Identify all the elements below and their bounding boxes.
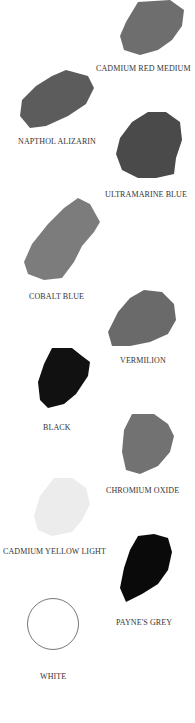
swatch-cobalt-blue — [22, 196, 102, 282]
label-black: BLACK — [43, 423, 71, 432]
swatch-black — [36, 346, 92, 414]
label-white: WHITE — [40, 672, 66, 681]
label-napthol-alizarin: NAPTHOL ALIZARIN — [18, 137, 96, 146]
label-vermilion: VERMILION — [120, 356, 166, 365]
swatch-cadmium-yellow-light — [32, 476, 92, 538]
swatch-paynes-grey — [118, 532, 174, 604]
swatch-cadmium-red-medium — [118, 0, 188, 58]
swatch-white — [26, 597, 80, 651]
label-paynes-grey: PAYNE'S GREY — [116, 618, 172, 627]
swatch-vermilion — [106, 288, 178, 348]
swatch-ultramarine-blue — [114, 110, 184, 180]
swatch-napthol-alizarin — [16, 68, 96, 130]
label-cadmium-yellow-light: CADMIUM YELLOW LIGHT — [3, 547, 106, 556]
label-cadmium-red-medium: CADMIUM RED MEDIUM — [96, 64, 191, 73]
label-ultramarine-blue: ULTRAMARINE BLUE — [105, 190, 187, 199]
label-chromium-oxide: CHROMIUM OXIDE — [106, 486, 179, 495]
swatch-chromium-oxide — [120, 412, 176, 476]
label-cobalt-blue: COBALT BLUE — [29, 292, 84, 301]
